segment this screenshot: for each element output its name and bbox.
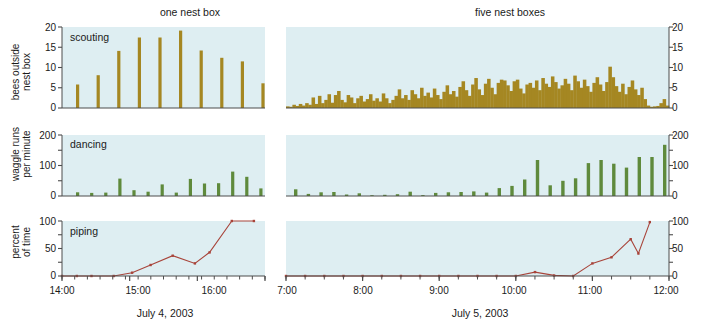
piping-plot <box>0 0 703 330</box>
caption-left: July 4, 2003 <box>65 307 265 319</box>
x-tick-right-2: 9:00 <box>419 285 459 296</box>
x-tick-right-3: 10:00 <box>493 285 535 296</box>
x-tick-right-5: 12:00 <box>645 285 687 296</box>
x-tick-left-0: 14:00 <box>42 285 82 296</box>
x-tick-right-1: 8:00 <box>343 285 383 296</box>
x-tick-left-1: 15:00 <box>118 285 158 296</box>
x-tick-right-0: 7:00 <box>267 285 307 296</box>
x-tick-left-2: 16:00 <box>194 285 234 296</box>
caption-right: July 5, 2003 <box>380 307 580 319</box>
x-tick-right-4: 11:00 <box>569 285 611 296</box>
figure-root: one nest box five nest boxes bees outsid… <box>0 0 703 330</box>
